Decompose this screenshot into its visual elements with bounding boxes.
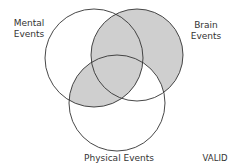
brain-label-line2: Events [188,31,224,42]
brain-events-label: Brain Events [188,20,224,42]
mental-label-line1: Mental [10,18,48,29]
brain-label-line1: Brain [188,20,224,31]
mental-label-line2: Events [10,29,48,40]
physical-events-label: Physical Events [84,153,154,164]
mental-events-label: Mental Events [10,18,48,40]
validity-verdict: VALID [200,153,230,164]
